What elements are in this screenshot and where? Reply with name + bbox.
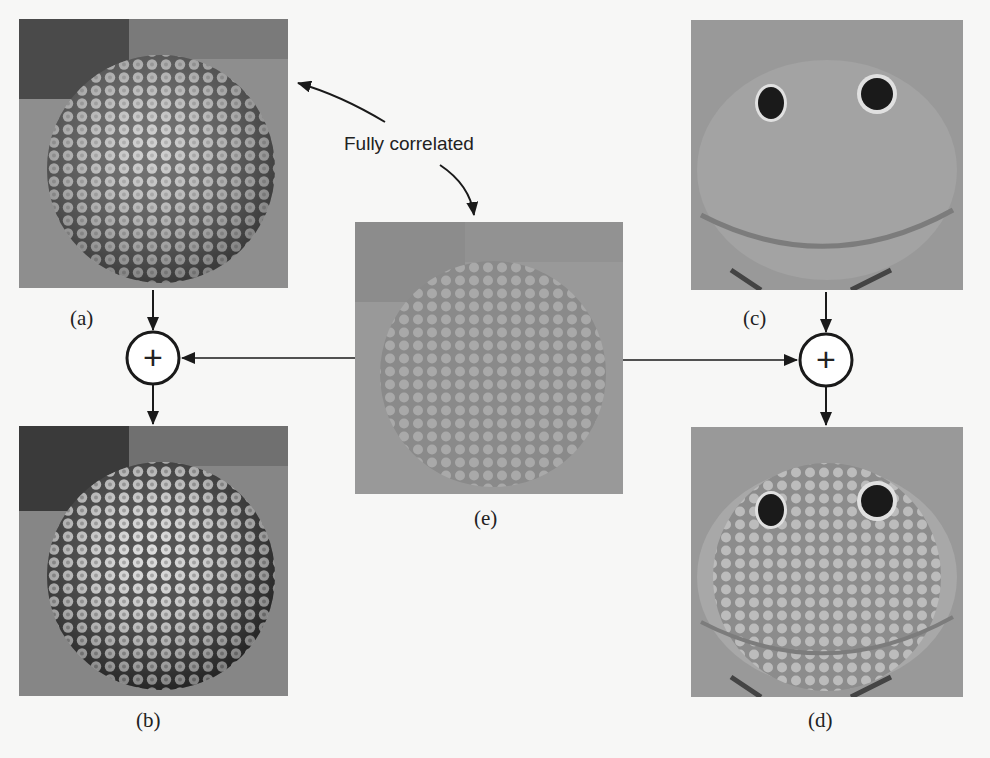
- label-a: (a): [70, 306, 93, 331]
- label-e: (e): [474, 506, 497, 531]
- annotation-fully-correlated: Fully correlated: [344, 133, 474, 155]
- diagram-connectors: [0, 0, 990, 758]
- arrow-annotation-to-e: [440, 165, 474, 215]
- label-d: (d): [808, 708, 833, 733]
- arrow-annotation-to-a: [298, 83, 385, 122]
- plus-icon-left: +: [140, 339, 166, 375]
- plus-icon-right: +: [813, 341, 839, 377]
- label-c: (c): [743, 306, 766, 331]
- label-b: (b): [136, 708, 161, 733]
